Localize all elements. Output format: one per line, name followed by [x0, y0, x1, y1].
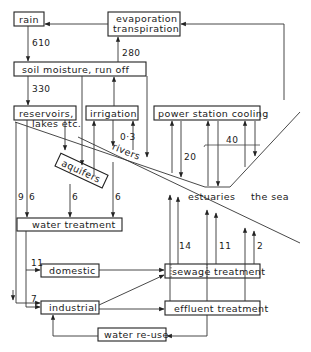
flow-sewage-2: 11: [219, 241, 231, 251]
soil-moisture-label: soil moisture, run off: [22, 64, 130, 75]
sea-label: the sea: [251, 191, 289, 202]
rain-label: rain: [19, 14, 39, 25]
rain-box: rain: [14, 12, 44, 26]
effluent-treatment-label: effluent treatment: [174, 303, 269, 314]
flow-rain-soil: 610: [32, 38, 50, 48]
irrigation-label: irrigation: [90, 108, 137, 119]
flow-soil-reservoirs: 330: [32, 84, 50, 94]
flow-power-sea: 40: [226, 135, 238, 145]
industrial-box: industrial: [41, 301, 99, 314]
flow-reservoirs-treatment: 6: [29, 192, 35, 202]
flow-domestic: 11: [31, 258, 43, 268]
power-station-label: power station cooling: [158, 108, 269, 119]
domestic-box: domestic: [41, 264, 99, 277]
flow-irrigation: 0·3: [120, 132, 136, 142]
irrigation-box: irrigation: [86, 106, 138, 120]
soil-moisture-box: soil moisture, run off: [14, 62, 146, 76]
water-reuse-label: water re-use: [104, 329, 169, 340]
transpiration-label: transpiration: [113, 23, 179, 34]
water-treatment-box: water treatment: [17, 218, 122, 231]
sewage-treatment-label: sewage treatment: [172, 266, 265, 277]
sewage-treatment-box: sewage treatment: [165, 264, 265, 278]
flow-rivers-treatment: 6: [115, 192, 121, 202]
water-cycle-diagram: rain evaporation transpiration soil mois…: [0, 0, 311, 352]
flow-sewage-3: 2: [257, 241, 263, 251]
aquifers-box: aquifers: [55, 153, 108, 188]
water-treatment-label: water treatment: [32, 219, 116, 230]
domestic-label: domestic: [49, 265, 96, 276]
flow-reservoirs-direct: 9: [18, 192, 24, 202]
rivers-label: rivers: [111, 141, 142, 162]
flow-industrial: 7: [31, 294, 37, 304]
industrial-label: industrial: [49, 302, 97, 313]
evaporation-box: evaporation transpiration: [108, 12, 180, 36]
lakes-label: lakes etc.: [32, 118, 81, 129]
flow-sewage-1: 14: [179, 241, 191, 251]
effluent-treatment-box: effluent treatment: [165, 301, 269, 315]
estuaries-label: estuaries: [188, 191, 235, 202]
water-reuse-box: water re-use: [98, 328, 169, 341]
flow-aquifers-treatment: 6: [72, 192, 78, 202]
power-station-box: power station cooling: [154, 106, 269, 120]
flow-power-return: 20: [184, 152, 196, 162]
flow-soil-evap: 280: [122, 48, 140, 58]
